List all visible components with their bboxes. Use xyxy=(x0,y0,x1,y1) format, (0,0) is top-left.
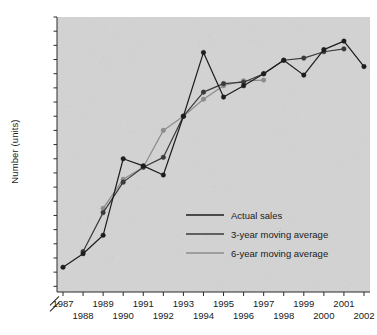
x-tick-label: 2002 xyxy=(353,310,374,321)
line-chart: Number (units) 2700260025002400230022002… xyxy=(0,0,377,335)
x-tick-label: 1994 xyxy=(193,310,214,321)
x-tick-label: 1996 xyxy=(233,310,254,321)
x-tick-label: 1993 xyxy=(173,298,194,309)
x-tick-label: 1998 xyxy=(273,310,294,321)
x-tick-label: 1990 xyxy=(113,310,134,321)
x-tick-label: 1997 xyxy=(253,298,274,309)
x-tick-label: 2001 xyxy=(333,298,354,309)
x-tick-label: 1991 xyxy=(133,298,154,309)
x-tick-label: 1989 xyxy=(93,298,114,309)
x-tick-label: 2000 xyxy=(313,310,334,321)
x-tick-label: 1988 xyxy=(72,310,93,321)
x-axis-tick-labels: 1987198819891990199119921993199419951996… xyxy=(0,0,377,335)
x-tick-label: 1999 xyxy=(293,298,314,309)
x-tick-label: 1992 xyxy=(153,310,174,321)
x-tick-label: 1995 xyxy=(213,298,234,309)
x-tick-label: 1987 xyxy=(52,298,73,309)
